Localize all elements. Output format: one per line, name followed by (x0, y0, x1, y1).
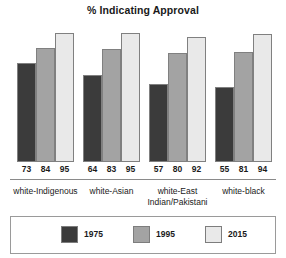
bar-value-label: 94 (253, 163, 272, 175)
legend-label: 1995 (156, 229, 175, 239)
bar (17, 63, 36, 162)
legend-swatch (61, 226, 78, 243)
category-label: white-Asian (75, 186, 149, 197)
bar-value-label: 64 (83, 163, 102, 175)
legend-label: 1975 (84, 229, 103, 239)
bar (102, 49, 121, 162)
bar-value-group: 648395 (83, 163, 140, 176)
bar-group (17, 26, 74, 162)
bar-value-label: 73 (17, 163, 36, 175)
bar-value-group: 558194 (215, 163, 272, 176)
chart-legend: 197519952015 (10, 216, 276, 254)
bar-value-label: 80 (168, 163, 187, 175)
category-label-line: Indian/Pakistani (141, 197, 215, 208)
category-label-line: white-black (207, 186, 281, 197)
bar (234, 52, 253, 162)
bar (83, 75, 102, 162)
x-axis-line (10, 179, 276, 180)
bar-value-label: 92 (187, 163, 206, 175)
legend-swatch (133, 226, 150, 243)
bar (55, 33, 74, 162)
bar (168, 53, 187, 162)
bar (253, 34, 272, 162)
bar-group (149, 26, 206, 162)
legend-label: 2015 (228, 229, 247, 239)
bar-value-label: 95 (55, 163, 74, 175)
bar-value-label: 83 (102, 163, 121, 175)
category-label: white-Indigenous (9, 186, 83, 197)
category-label-line: white-Indigenous (9, 186, 83, 197)
data-label-row: 738495648395578092558194 (10, 163, 276, 176)
legend-swatch (205, 226, 222, 243)
bar-value-group: 738495 (17, 163, 74, 176)
category-label-row: white-Indigenouswhite-Asianwhite-EastInd… (6, 186, 280, 212)
bar-value-label: 81 (234, 163, 253, 175)
bar-value-label: 55 (215, 163, 234, 175)
bar-value-label: 84 (36, 163, 55, 175)
bar-value-group: 578092 (149, 163, 206, 176)
bar-value-label: 95 (121, 163, 140, 175)
category-label-line: white-Asian (75, 186, 149, 197)
bar-value-label: 57 (149, 163, 168, 175)
bar (36, 48, 55, 162)
bar (187, 37, 206, 162)
bar (149, 84, 168, 162)
approval-bar-chart: % Indicating Approval 738495648395578092… (0, 0, 286, 258)
category-label-line: white-East (141, 186, 215, 197)
chart-title: % Indicating Approval (0, 4, 286, 16)
plot-area (10, 26, 276, 162)
bar (215, 87, 234, 162)
bar-group (215, 26, 272, 162)
bar (121, 33, 140, 162)
category-label: white-black (207, 186, 281, 197)
category-label: white-EastIndian/Pakistani (141, 186, 215, 208)
bar-group (83, 26, 140, 162)
